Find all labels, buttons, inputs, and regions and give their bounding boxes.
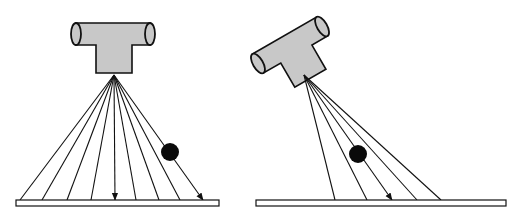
xray-tube-icon (71, 23, 155, 73)
x-ray-line (114, 75, 159, 200)
x-ray-line (91, 75, 114, 200)
x-ray-line (114, 75, 180, 200)
x-ray-line (114, 75, 136, 200)
left-panel (16, 23, 219, 206)
detector-plate (256, 200, 506, 206)
x-ray-line (304, 75, 335, 200)
x-ray-line (114, 75, 203, 200)
x-ray-line (304, 75, 367, 200)
x-ray-line (114, 75, 115, 200)
x-ray-line (304, 75, 392, 200)
diagram-canvas (0, 0, 518, 215)
right-panel (248, 14, 506, 206)
x-ray-line (42, 75, 114, 200)
object-ball (161, 143, 179, 161)
xray-tube-tilted-icon (248, 14, 346, 99)
x-ray-line (20, 75, 114, 200)
x-ray-line (304, 75, 441, 200)
ray-fan (304, 75, 441, 200)
x-ray-line (304, 75, 417, 200)
detector-plate (16, 200, 219, 206)
ray-fan (20, 75, 203, 200)
object-ball (349, 145, 367, 163)
x-ray-line (67, 75, 114, 200)
